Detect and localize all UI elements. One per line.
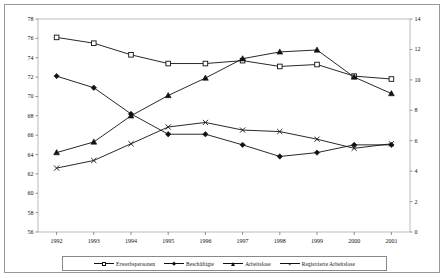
left-axis-tick-label: 66 <box>28 132 34 138</box>
left-axis-tick-label: 56 <box>28 229 34 235</box>
right-axis-tick-label: 6 <box>415 138 418 144</box>
right-axis-tick-label: 4 <box>415 168 418 174</box>
left-axis-tick-label: 62 <box>28 171 34 177</box>
series-marker-0 <box>278 64 283 69</box>
left-axis-tick-label: 74 <box>28 55 34 61</box>
chart-screenshot: 5658606264666870727476780246810121419921… <box>0 0 446 279</box>
left-axis-tick-label: 58 <box>28 210 34 216</box>
x-cross-icon: × <box>288 261 292 267</box>
right-axis-tick-label: 2 <box>415 199 418 205</box>
left-axis-tick-label: 72 <box>28 74 34 80</box>
filled-diamond-icon <box>172 261 177 266</box>
right-axis-tick-label: 10 <box>415 77 421 83</box>
open-square-icon <box>102 262 106 266</box>
x-axis-tick-label: 1994 <box>125 238 137 244</box>
legend-line-2 <box>223 263 243 264</box>
x-axis-tick-label: 2001 <box>385 238 397 244</box>
right-axis-tick-label: 0 <box>415 229 418 235</box>
x-axis-tick-label: 1999 <box>311 238 323 244</box>
series-marker-0 <box>92 41 97 46</box>
series-marker-0 <box>166 61 171 66</box>
left-axis-tick-label: 70 <box>28 93 34 99</box>
filled-triangle-icon <box>231 262 235 266</box>
plot-border <box>38 19 410 232</box>
chart-legend: ErwerbspersonenBeschäftigteArbeitslose×R… <box>62 256 387 271</box>
x-axis-tick-label: 1995 <box>162 238 174 244</box>
x-axis-tick-label: 2000 <box>348 238 360 244</box>
x-axis-tick-label: 1997 <box>237 238 249 244</box>
x-axis-tick-label: 1996 <box>199 238 211 244</box>
series-marker-0 <box>54 35 59 40</box>
legend-label-1: Beschäftigte <box>186 261 214 267</box>
right-axis-tick-label: 8 <box>415 107 418 113</box>
series-marker-0 <box>203 61 208 66</box>
legend-item-0: Erwerbspersonen <box>94 261 155 267</box>
x-axis-tick-label: 1992 <box>51 238 63 244</box>
chart-plot-area: 5658606264666870727476780246810121419921… <box>0 0 446 279</box>
series-marker-0 <box>315 62 320 67</box>
left-axis-tick-label: 64 <box>28 152 34 158</box>
legend-label-3: Registrierte Arbeitslose <box>302 261 355 267</box>
right-axis-tick-label: 12 <box>415 46 421 52</box>
legend-item-1: Beschäftigte <box>164 261 214 267</box>
series-marker-0 <box>389 77 394 82</box>
left-axis-tick-label: 78 <box>28 16 34 22</box>
legend-line-1 <box>164 263 184 264</box>
left-axis-tick-label: 76 <box>28 35 34 41</box>
series-marker-0 <box>129 53 134 58</box>
right-axis-tick-label: 14 <box>415 16 421 22</box>
x-axis-tick-label: 1993 <box>88 238 100 244</box>
legend-item-3: ×Registrierte Arbeitslose <box>280 261 355 267</box>
left-axis-tick-label: 60 <box>28 190 34 196</box>
x-axis-tick-label: 1998 <box>274 238 286 244</box>
legend-label-2: Arbeitslose <box>245 261 271 267</box>
legend-line-3: × <box>280 263 300 264</box>
chart-svg: 5658606264666870727476780246810121419921… <box>0 0 446 279</box>
legend-line-0 <box>94 263 114 264</box>
legend-item-2: Arbeitslose <box>223 261 271 267</box>
left-axis-tick-label: 68 <box>28 113 34 119</box>
legend-label-0: Erwerbspersonen <box>116 261 155 267</box>
